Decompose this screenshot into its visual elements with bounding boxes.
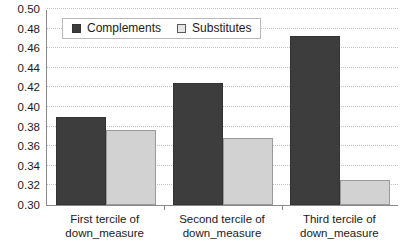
y-axis-tick-label: 0.42	[0, 83, 40, 95]
y-axis-tick-label: 0.32	[0, 181, 40, 193]
legend-item-complements: Complements	[72, 22, 161, 34]
y-axis-tick-label: 0.44	[0, 63, 40, 75]
x-axis-tick	[164, 205, 165, 210]
legend-swatch-complements-icon	[72, 24, 81, 33]
legend-label-substitutes: Substitutes	[192, 22, 251, 34]
x-axis-tick	[282, 205, 283, 210]
y-axis-tick-label: 0.34	[0, 161, 40, 173]
legend-label-complements: Complements	[87, 22, 161, 34]
bar-complements	[56, 117, 106, 205]
y-axis-tick-label: 0.30	[0, 200, 40, 212]
chart-legend: Complements Substitutes	[62, 18, 261, 39]
x-axis-category-label: Second tercile ofdown_measure	[163, 212, 280, 240]
bar-complements	[290, 36, 340, 205]
gridline	[47, 8, 398, 9]
bar-substitutes	[340, 180, 390, 205]
x-axis-category-label: Third tercile ofdown_measure	[281, 212, 398, 240]
y-axis-tick-label: 0.40	[0, 102, 40, 114]
y-axis-tick-label: 0.36	[0, 141, 40, 153]
bar-chart: 0.500.480.460.440.420.400.380.360.340.32…	[0, 0, 411, 248]
y-axis-tick-label: 0.38	[0, 122, 40, 134]
bar-substitutes	[223, 138, 273, 205]
x-axis-category-labels: First tercile ofdown_measureSecond terci…	[46, 212, 398, 246]
legend-item-substitutes: Substitutes	[177, 22, 251, 34]
y-axis-tick-label: 0.48	[0, 24, 40, 36]
y-axis-tick-label: 0.46	[0, 43, 40, 55]
bar-substitutes	[106, 130, 156, 205]
bar-complements	[173, 83, 223, 206]
y-axis-tick-label: 0.50	[0, 4, 40, 16]
x-axis-category-label: First tercile ofdown_measure	[46, 212, 163, 240]
plot-area	[46, 10, 398, 206]
legend-swatch-substitutes-icon	[177, 24, 186, 33]
bars-layer	[47, 10, 398, 205]
